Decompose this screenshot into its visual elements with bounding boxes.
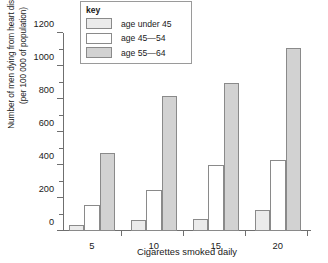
legend: key age under 45 age 45—54 age 55—64 [80, 1, 192, 64]
y-axis-tick-label: 0 [49, 218, 54, 227]
y-axis-tick-label: 1200 [34, 20, 54, 29]
y-axis-minor-tick [59, 82, 63, 83]
bar-10-series-2 [146, 190, 162, 231]
y-axis-tick [57, 230, 63, 231]
y-axis-minor-tick [59, 148, 63, 149]
x-axis-title: Cigarettes smoked daily [63, 246, 311, 257]
y-axis-tick [57, 98, 63, 99]
bar-chart: Number of men dying from heart disease (… [0, 0, 328, 263]
y-axis-tick [57, 197, 63, 198]
bar-20-series-2 [270, 160, 286, 231]
y-axis-line [63, 33, 64, 231]
legend-swatch-age-45-54 [86, 33, 112, 44]
x-axis-tick [183, 231, 184, 236]
y-axis-tick-label: 400 [39, 152, 54, 161]
x-axis-tick [245, 231, 246, 236]
y-axis-tick-label: 200 [39, 185, 54, 194]
y-axis-title: Number of men dying from heart disease (… [6, 0, 29, 159]
bar-20-series-1 [255, 210, 271, 231]
legend-swatch-age-55-64 [86, 47, 112, 58]
bar-15-series-2 [208, 165, 224, 231]
bar-5-series-3 [100, 153, 116, 231]
legend-item: age under 45 [86, 17, 187, 30]
legend-swatch-age-under-45 [86, 18, 112, 29]
y-axis-minor-tick [59, 214, 63, 215]
legend-label: age under 45 [121, 19, 172, 29]
legend-label: age 45—54 [121, 33, 165, 43]
y-axis-minor-tick [59, 115, 63, 116]
y-axis-minor-tick [59, 49, 63, 50]
y-axis-title-line-2: (per 100 000 of population) [17, 0, 29, 159]
legend-item: age 45—54 [86, 32, 187, 45]
y-axis-title-line-1: Number of men dying from heart disease [6, 0, 18, 159]
y-axis-tick-label: 600 [39, 119, 54, 128]
y-axis-tick-label: 1000 [34, 53, 54, 62]
x-axis-tick [307, 231, 308, 236]
y-axis-tick [57, 131, 63, 132]
legend-title: key [86, 5, 187, 15]
y-axis-tick [57, 65, 63, 66]
y-axis-tick [57, 32, 63, 33]
bar-15-series-3 [224, 83, 240, 232]
x-axis-tick [121, 231, 122, 236]
y-axis-minor-tick [59, 181, 63, 182]
bar-5-series-1 [69, 225, 85, 231]
legend-item: age 55—64 [86, 46, 187, 59]
bar-20-series-3 [286, 48, 302, 231]
bar-10-series-3 [162, 96, 178, 231]
bar-10-series-1 [131, 220, 147, 231]
y-axis-tick-label: 800 [39, 86, 54, 95]
bar-15-series-1 [193, 219, 209, 231]
bar-5-series-2 [84, 205, 100, 231]
legend-label: age 55—64 [121, 48, 165, 58]
y-axis-tick [57, 164, 63, 165]
